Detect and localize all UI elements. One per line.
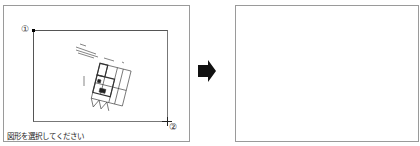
start-point-marker (32, 29, 35, 32)
result-view-panel[interactable] (235, 5, 419, 142)
status-message: 図形を選択してください (7, 130, 84, 141)
source-view-panel[interactable]: ① ② 図形を選択してください (3, 5, 190, 142)
arrow-right-icon (198, 60, 216, 82)
floor-plan-drawing[interactable] (74, 36, 134, 111)
point-1-label: ① (21, 24, 29, 34)
point-2-label: ② (169, 122, 177, 132)
